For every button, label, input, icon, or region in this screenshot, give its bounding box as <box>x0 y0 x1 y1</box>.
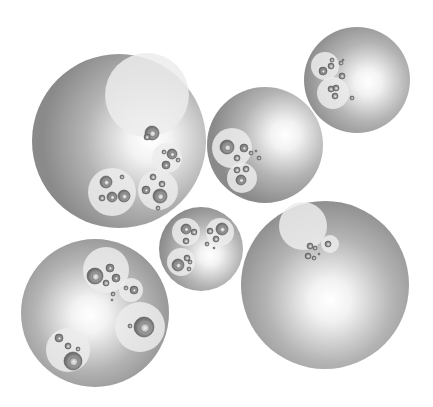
leaf-circle <box>319 67 327 75</box>
root-top-right <box>304 27 410 133</box>
leaf-circle <box>207 228 213 234</box>
leaf-circle <box>106 264 114 272</box>
leaf-circle <box>150 174 156 180</box>
leaf-circle <box>213 247 215 249</box>
leaf-circle <box>111 299 113 301</box>
leaf-circle <box>328 63 334 69</box>
leaf-circle <box>167 149 177 159</box>
leaf-circle <box>76 347 80 351</box>
leaf-circle <box>243 166 249 172</box>
leaf-circle <box>111 292 115 296</box>
leaf-circle <box>99 195 105 201</box>
leaf-circle <box>255 150 257 152</box>
leaf-circle <box>162 150 166 154</box>
leaf-circle <box>342 59 344 61</box>
leaf-circle <box>162 161 170 169</box>
leaf-circle <box>333 85 339 91</box>
root-top-left <box>32 53 206 228</box>
leaf-circle <box>236 175 246 185</box>
group-circle <box>279 202 327 250</box>
group-circle <box>311 52 339 80</box>
leaf-circle <box>100 176 112 188</box>
leaf-circle <box>216 223 228 235</box>
root-middle-small <box>159 207 243 291</box>
circle-packing-diagram <box>0 0 433 407</box>
root-circle <box>304 27 410 133</box>
leaf-circle <box>191 229 197 235</box>
root-circle <box>159 207 243 291</box>
leaf-circle <box>339 73 345 79</box>
leaf-circle <box>220 140 234 154</box>
leaf-circle <box>65 343 71 349</box>
leaf-circle <box>176 158 180 162</box>
leaf-circle <box>188 260 192 264</box>
leaf-circle <box>172 259 184 271</box>
leaf-circle <box>318 253 320 255</box>
leaf-circle <box>312 256 316 260</box>
leaf-circle <box>187 267 191 271</box>
leaf-circle <box>183 238 189 244</box>
leaf-circle <box>87 268 103 284</box>
leaf-circle <box>118 190 130 202</box>
leaf-circle <box>257 156 261 160</box>
leaf-circle <box>128 324 132 328</box>
leaf-circle <box>305 253 311 259</box>
leaf-circle <box>153 189 167 203</box>
leaf-circle <box>124 286 128 290</box>
leaf-circle <box>107 192 117 202</box>
root-bottom-left <box>21 239 169 387</box>
leaf-circle <box>112 274 120 282</box>
leaf-circle <box>213 236 219 242</box>
leaf-circle <box>350 96 354 100</box>
leaf-circle <box>332 93 338 99</box>
leaf-circle <box>325 241 331 247</box>
leaf-circle <box>205 242 209 246</box>
leaf-circle <box>313 246 317 250</box>
leaf-circle <box>120 175 124 179</box>
leaf-circle <box>55 334 63 342</box>
leaf-circle <box>103 280 109 286</box>
root-bottom-right <box>241 201 409 369</box>
leaf-circle <box>142 186 150 194</box>
leaf-circle <box>330 58 334 62</box>
leaf-circle <box>159 181 165 187</box>
group-circle <box>317 77 349 109</box>
leaf-circle <box>249 151 253 155</box>
root-middle-upper <box>207 87 323 203</box>
leaf-circle <box>307 243 313 249</box>
leaf-circle <box>144 134 150 140</box>
leaf-circle <box>130 286 138 294</box>
leaf-circle <box>234 155 240 161</box>
leaf-circle <box>64 352 82 370</box>
leaf-circle <box>234 167 240 173</box>
leaf-circle <box>156 206 160 210</box>
leaf-circle <box>240 144 248 152</box>
leaf-circle <box>181 224 191 234</box>
group-circle <box>105 53 189 137</box>
leaf-circle <box>134 317 154 337</box>
leaf-circle <box>339 61 343 65</box>
